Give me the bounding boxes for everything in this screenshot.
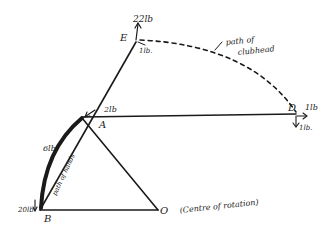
label-centre-of-rotation: (Centre of rotation) — [179, 198, 259, 215]
label-force-E-side: 1lb. — [139, 47, 152, 55]
label-force-D-right: 1lb — [305, 103, 318, 112]
label-force-E-up: 22lb — [132, 14, 153, 24]
arrow-E-side — [138, 42, 145, 45]
label-force-hands: 6lb — [43, 144, 56, 153]
label-B: B — [43, 213, 51, 224]
pointer-clubhead-label — [215, 42, 222, 50]
hands-path-arc — [41, 118, 82, 208]
diagram-canvas: E 22lb 1lb. A 2lb B O D 1lb 1lb. 6lb 20l… — [0, 0, 330, 235]
line-AD — [82, 114, 296, 117]
label-D: D — [287, 102, 296, 113]
label-force-D-down: 1lb. — [299, 124, 312, 132]
label-A: A — [98, 119, 106, 130]
label-clubhead-path-1: path of — [225, 35, 256, 47]
label-O: O — [160, 205, 168, 216]
label-E: E — [119, 32, 128, 43]
label-clubhead-path-2: clubhead — [237, 44, 275, 57]
line-AO — [82, 118, 158, 210]
label-force-A: 2lb — [103, 105, 117, 114]
label-hands-path: path of hands — [51, 152, 78, 197]
label-force-B: 20lb — [17, 206, 34, 214]
